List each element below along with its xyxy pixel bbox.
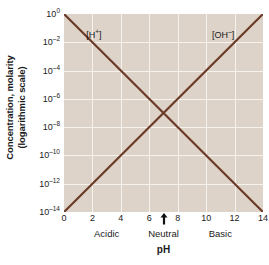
acidic-region: Acidic [94,228,119,239]
y-tick-exponent: –8 [53,120,60,127]
series-label-text: [H [86,30,95,40]
x-axis-tick-label: 8 [175,213,180,223]
x-axis-tick-label: 12 [230,213,240,223]
plot-area: [H+][OH–] [64,14,263,212]
y-axis-tick-labels: 10010–210–410–610–810–1010–1210–14 [28,14,62,212]
neutral-region: Neutral [148,228,179,239]
y-axis-tick-label: 10–10 [39,150,60,160]
y-tick-exponent: –4 [53,64,60,71]
y-axis-title: Concentration, molarity (logarithmic sca… [0,0,30,215]
y-tick-mantissa: 10 [46,9,56,19]
y-axis-tick-label: 10–2 [43,37,60,47]
y-axis-tick-label: 10–14 [39,207,60,217]
series-label: [OH–] [212,30,234,40]
y-tick-exponent: 0 [56,7,60,14]
series-label: [H+] [86,30,101,40]
x-axis-title: pH [64,244,263,255]
x-axis-tick-label: 10 [201,213,211,223]
series-lines [64,14,263,212]
y-tick-mantissa: 10 [43,37,53,47]
neutral-arrow-icon [159,212,168,225]
y-axis-title-line2: (logarithmic scale) [15,55,27,159]
x-axis-tick-label: 2 [90,213,95,223]
x-axis-tick-label: 14 [258,213,268,223]
y-tick-exponent: –6 [53,92,60,99]
ph-concentration-chart: Concentration, molarity (logarithmic sca… [0,0,269,265]
y-tick-mantissa: 10 [43,66,53,76]
x-axis-tick-label: 6 [147,213,152,223]
x-axis-tick-label: 0 [61,213,66,223]
ph-region-labels: AcidicNeutralBasic [64,228,263,242]
y-tick-exponent: –12 [49,177,60,184]
series-label-text: [OH [212,30,228,40]
y-axis-tick-label: 10–6 [43,94,60,104]
x-axis-tick-label: 4 [118,213,123,223]
basic-region: Basic [209,228,232,239]
y-tick-mantissa: 10 [39,150,49,160]
y-axis-tick-label: 10–12 [39,179,60,189]
y-tick-mantissa: 10 [39,179,49,189]
y-axis-title-line1: Concentration, molarity [4,55,15,159]
y-axis-tick-label: 10–4 [43,66,60,76]
series-label-tail: ] [99,30,102,40]
y-tick-mantissa: 10 [43,122,53,132]
y-axis-tick-label: 100 [46,9,60,19]
y-tick-exponent: –14 [49,205,60,212]
series-label-tail: ] [232,30,235,40]
y-tick-exponent: –2 [53,35,60,42]
y-tick-exponent: –10 [49,148,60,155]
y-tick-mantissa: 10 [43,94,53,104]
y-axis-tick-label: 10–8 [43,122,60,132]
y-tick-mantissa: 10 [39,207,49,217]
